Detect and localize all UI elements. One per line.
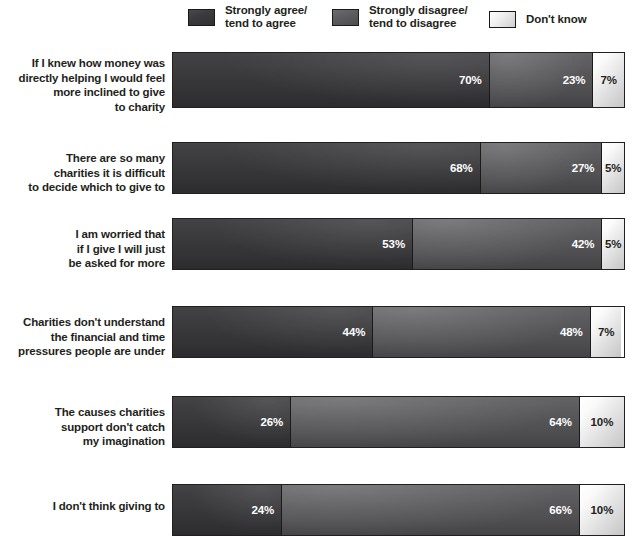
chart-row-label: I am worried thatif I give I will justbe… (0, 227, 165, 271)
bar-segment-disagree: 66% (281, 485, 579, 535)
bar-segment-value: 24% (252, 504, 282, 516)
bar-segment-value: 5% (605, 162, 621, 174)
bar-segment-value: 27% (572, 162, 602, 174)
bar-segment-value: 5% (605, 238, 621, 250)
bar-segment-dont-know: 7% (592, 53, 624, 107)
bar-segment-agree: 44% (173, 307, 372, 357)
stacked-bar: 24%66%10% (172, 484, 625, 536)
bar-segment-value: 48% (560, 326, 590, 338)
stacked-bar: 70%23%7% (172, 52, 625, 108)
bar-segment-disagree: 48% (372, 307, 589, 357)
bar-segment-value: 53% (382, 238, 412, 250)
bar-segment-value: 70% (459, 74, 489, 86)
bar-segment-value: 44% (343, 326, 373, 338)
legend-label-disagree: Strongly disagree/tend to disagree (369, 4, 468, 30)
stacked-bar: 44%48%7% (172, 306, 625, 358)
bar-segment-agree: 24% (173, 485, 281, 535)
bar-segment-disagree: 64% (290, 397, 579, 447)
legend-item-disagree: Strongly disagree/tend to disagree (332, 4, 468, 30)
bar-segment-disagree: 23% (489, 53, 593, 107)
bar-segment-value: 68% (450, 162, 480, 174)
chart-legend: Strongly agree/tend to agree Strongly di… (0, 0, 635, 40)
legend-item-agree: Strongly agree/tend to agree (188, 4, 307, 30)
bar-segment-agree: 68% (173, 143, 480, 193)
bar-segment-dont-know: 10% (579, 485, 624, 535)
legend-label-dont-know: Don't know (526, 13, 587, 26)
chart-row-label: There are so manycharities it is difficu… (0, 151, 165, 195)
bar-segment-dont-know: 7% (590, 307, 622, 357)
bar-segment-dont-know: 5% (601, 219, 624, 269)
legend-swatch-disagree-icon (332, 9, 359, 26)
legend-label-agree: Strongly agree/tend to agree (225, 4, 307, 30)
bar-segment-value: 10% (591, 416, 614, 428)
bar-segment-disagree: 27% (480, 143, 602, 193)
bar-segment-value: 7% (598, 326, 614, 338)
bar-segment-agree: 70% (173, 53, 489, 107)
bar-segment-dont-know: 5% (601, 143, 624, 193)
legend-swatch-agree-icon (188, 9, 215, 26)
chart-row-label: If I knew how money wasdirectly helping … (0, 56, 165, 114)
bar-segment-agree: 26% (173, 397, 290, 447)
bar-segment-value: 64% (549, 416, 579, 428)
stacked-bar: 53%42%5% (172, 218, 625, 270)
chart-row-label: Charities don't understandthe financial … (0, 315, 165, 359)
bar-segment-value: 66% (549, 504, 579, 516)
bar-segment-value: 42% (572, 238, 602, 250)
bar-segment-agree: 53% (173, 219, 412, 269)
legend-swatch-dont-know-icon (489, 11, 516, 28)
stacked-bar: 26%64%10% (172, 396, 625, 448)
chart-row-label: The causes charitiessupport don't catchm… (0, 405, 165, 449)
bar-segment-value: 7% (601, 74, 617, 86)
bar-segment-dont-know: 10% (579, 397, 624, 447)
chart-row-label: I don't think giving to (0, 499, 165, 514)
legend-item-dont-know: Don't know (489, 11, 587, 28)
bar-segment-value: 26% (261, 416, 291, 428)
stacked-bar: 68%27%5% (172, 142, 625, 194)
bar-segment-value: 10% (591, 504, 614, 516)
bar-segment-disagree: 42% (412, 219, 601, 269)
bar-segment-value: 23% (563, 74, 593, 86)
